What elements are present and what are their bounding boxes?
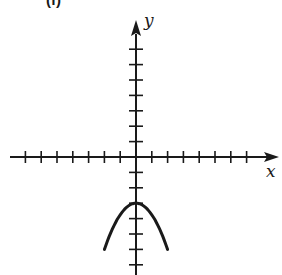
y-axis-label: y — [144, 12, 154, 29]
y-axis-arrow-icon — [131, 20, 141, 36]
axes — [10, 20, 279, 275]
x-axis-label: x — [266, 163, 276, 180]
chart-canvas — [0, 0, 282, 275]
